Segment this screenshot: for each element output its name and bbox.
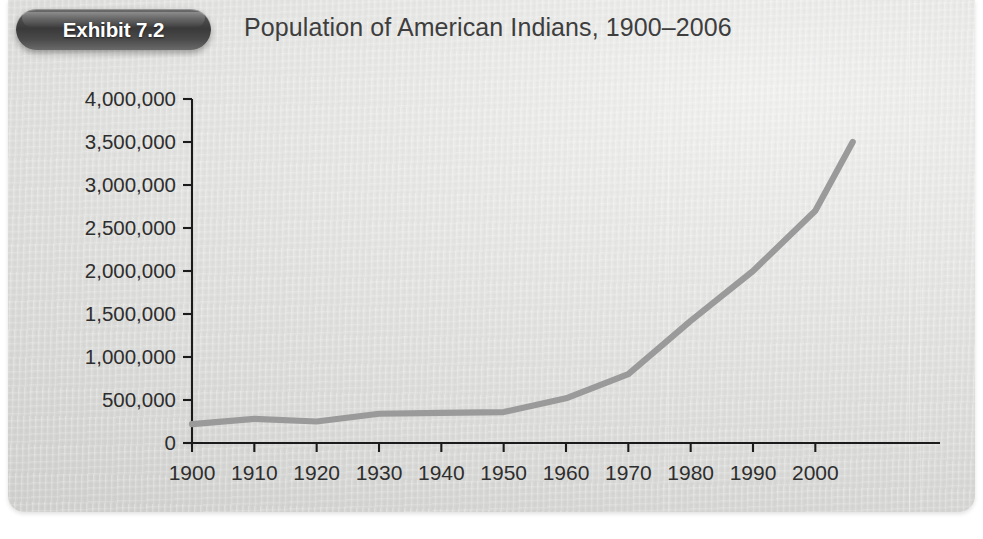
x-tick-label: 1920: [293, 461, 340, 484]
exhibit-page: Exhibit 7.2 Population of American India…: [0, 0, 983, 539]
series-line-population: [192, 142, 853, 424]
y-tick-label: 1,500,000: [85, 302, 176, 325]
x-tick-label: 1990: [730, 461, 777, 484]
x-tick-label: 1900: [169, 461, 216, 484]
x-tick-label: 1970: [605, 461, 652, 484]
y-tick-label: 2,500,000: [85, 216, 176, 239]
y-tick-label: 500,000: [102, 388, 176, 411]
y-axis-tick-marks: [183, 99, 192, 443]
y-tick-label: 4,000,000: [85, 87, 176, 110]
x-axis-tick-labels: 1900191019201930194019501960197019801990…: [169, 461, 839, 484]
x-tick-label: 1960: [543, 461, 590, 484]
y-tick-label: 0: [165, 431, 176, 454]
x-tick-label: 2000: [792, 461, 839, 484]
x-tick-label: 1980: [667, 461, 714, 484]
x-tick-label: 1950: [480, 461, 527, 484]
y-tick-label: 3,000,000: [85, 173, 176, 196]
x-tick-label: 1940: [418, 461, 465, 484]
line-chart: 0500,0001,000,0001,500,0002,000,0002,500…: [0, 0, 983, 512]
chart-svg: 0500,0001,000,0001,500,0002,000,0002,500…: [0, 0, 983, 512]
x-axis-tick-marks: [192, 443, 815, 452]
x-tick-label: 1930: [356, 461, 403, 484]
x-tick-label: 1910: [231, 461, 278, 484]
exhibit-badge-label: Exhibit 7.2: [63, 18, 164, 42]
y-tick-label: 3,500,000: [85, 130, 176, 153]
y-tick-label: 1,000,000: [85, 345, 176, 368]
y-axis-tick-labels: 0500,0001,000,0001,500,0002,000,0002,500…: [85, 87, 176, 454]
y-tick-label: 2,000,000: [85, 259, 176, 282]
